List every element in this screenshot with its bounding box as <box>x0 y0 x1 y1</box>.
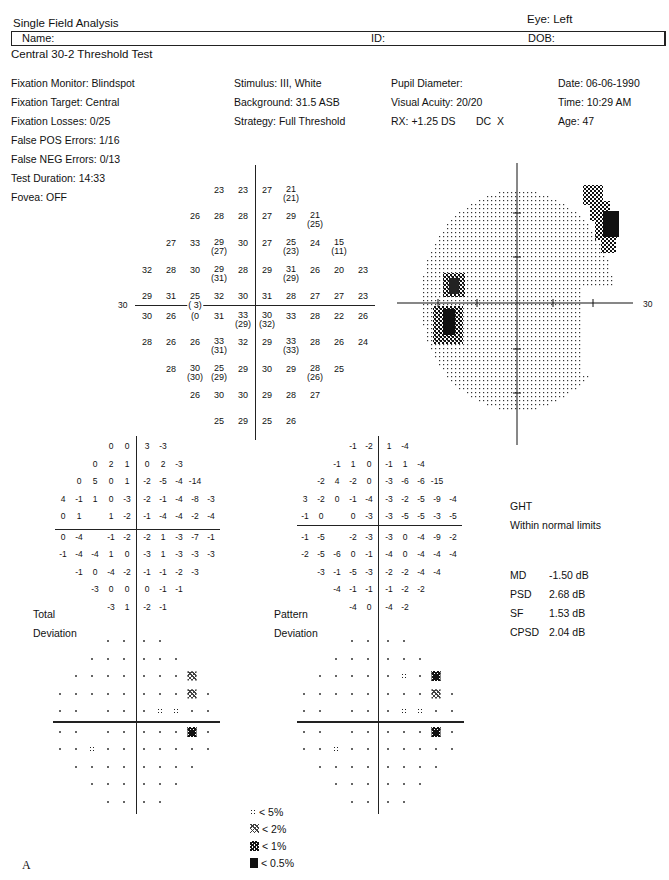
threshold-value: 29(27) <box>211 238 227 256</box>
deviation-value: -3 <box>365 567 373 577</box>
p1-symbol-icon <box>432 727 441 737</box>
legend-05pct: < 0.5% <box>250 854 294 871</box>
deviation-value: -9 <box>433 494 441 504</box>
deviation-value: -1 <box>143 567 151 577</box>
threshold-value: 28 <box>166 266 176 275</box>
p2-symbol-icon <box>432 689 441 698</box>
deviation-value: -4 <box>175 476 183 486</box>
normal-point-icon <box>107 731 109 733</box>
deviation-value: -3 <box>159 441 167 451</box>
deviation-value: 0 <box>109 476 114 486</box>
normal-point-icon <box>351 640 353 642</box>
normal-point-icon <box>387 658 389 660</box>
normal-point-icon <box>367 783 369 785</box>
threshold-value: 31 <box>166 292 176 301</box>
normal-point-icon <box>107 640 109 642</box>
threshold-value: 25 <box>334 365 344 374</box>
normal-point-icon <box>159 640 161 642</box>
normal-point-icon <box>419 731 421 733</box>
normal-point-icon <box>175 658 177 660</box>
normal-point-icon <box>143 801 145 803</box>
threshold-value: 26 <box>190 338 200 347</box>
visual-acuity: Visual Acuity: 20/20 <box>391 93 504 112</box>
normal-point-icon <box>159 748 161 750</box>
deviation-value: -4 <box>417 549 425 559</box>
normal-point-icon <box>367 801 369 803</box>
deviation-value: -5 <box>449 511 457 521</box>
deviation-value: -3 <box>175 549 183 559</box>
normal-point-icon <box>143 640 145 642</box>
threshold-value: 20 <box>334 266 344 275</box>
strategy: Strategy: Full Threshold <box>234 112 345 131</box>
grayscale-plot: 30 <box>395 163 669 448</box>
deviation-value: -6 <box>417 476 425 486</box>
deviation-value: -2 <box>385 567 393 577</box>
normal-point-icon <box>123 766 125 768</box>
threshold-value: 32 <box>214 292 224 301</box>
deviation-value: -4 <box>349 602 357 612</box>
normal-point-icon <box>419 675 421 677</box>
threshold-value: 30 <box>238 239 248 248</box>
deviation-value: 1 <box>161 532 166 542</box>
svg-text:30: 30 <box>643 299 653 309</box>
threshold-value: 25 <box>262 417 272 426</box>
p5-symbol-icon <box>417 708 423 714</box>
normal-point-icon <box>303 731 305 733</box>
normal-point-icon <box>319 766 321 768</box>
normal-point-icon <box>387 766 389 768</box>
normal-point-icon <box>91 693 93 695</box>
normal-point-icon <box>123 710 125 712</box>
deviation-value: -1 <box>385 584 393 594</box>
normal-point-icon <box>107 801 109 803</box>
deviation-value: -3 <box>385 532 393 542</box>
deviation-value: -5 <box>349 567 357 577</box>
deviation-value: -1 <box>333 459 341 469</box>
deviation-value: 1 <box>109 549 114 559</box>
fovea-status: Fovea: OFF <box>11 188 67 207</box>
deviation-value: -3 <box>175 532 183 542</box>
probability-legend: < 5% < 2% < 1% < 0.5% <box>250 803 294 871</box>
deviation-value: -3 <box>91 584 99 594</box>
normal-point-icon <box>403 783 405 785</box>
fixation-target: Fixation Target: Central <box>11 93 135 112</box>
normal-point-icon <box>159 731 161 733</box>
threshold-value: 27 <box>262 212 272 221</box>
normal-point-icon <box>159 693 161 695</box>
deviation-value: -2 <box>365 441 373 451</box>
normal-point-icon <box>123 783 125 785</box>
threshold-value: 25 <box>214 417 224 426</box>
deviation-value: 2 <box>109 459 114 469</box>
normal-point-icon <box>387 801 389 803</box>
legend-5pct: < 5% <box>250 803 294 820</box>
threshold-value: 31 <box>214 312 224 321</box>
deviation-value: -14 <box>189 476 201 486</box>
normal-point-icon <box>387 640 389 642</box>
deviation-value: 0 <box>125 549 130 559</box>
normal-point-icon <box>319 710 321 712</box>
normal-point-icon <box>351 748 353 750</box>
deviation-value: -4 <box>417 459 425 469</box>
deviation-value: -3 <box>317 567 325 577</box>
normal-point-icon <box>123 640 125 642</box>
normal-point-icon <box>403 640 405 642</box>
normal-point-icon <box>451 748 453 750</box>
normal-point-icon <box>419 766 421 768</box>
deviation-value: 1 <box>125 476 130 486</box>
threshold-axis-label: 30 <box>118 300 127 310</box>
threshold-value: 29(31) <box>211 265 227 283</box>
normal-point-icon <box>143 731 145 733</box>
p1-symbol-icon <box>188 727 197 737</box>
deviation-value: 1 <box>351 459 356 469</box>
deviation-value: 4 <box>61 494 66 504</box>
normal-point-icon <box>419 783 421 785</box>
deviation-value: -4 <box>417 532 425 542</box>
normal-point-icon <box>75 693 77 695</box>
threshold-value: 26 <box>286 417 296 426</box>
normal-point-icon <box>387 693 389 695</box>
normal-point-icon <box>335 766 337 768</box>
deviation-value: -2 <box>401 602 409 612</box>
normal-point-icon <box>319 748 321 750</box>
threshold-value: 29 <box>142 292 152 301</box>
deviation-value: -7 <box>191 532 199 542</box>
threshold-value: 23 <box>238 186 248 195</box>
